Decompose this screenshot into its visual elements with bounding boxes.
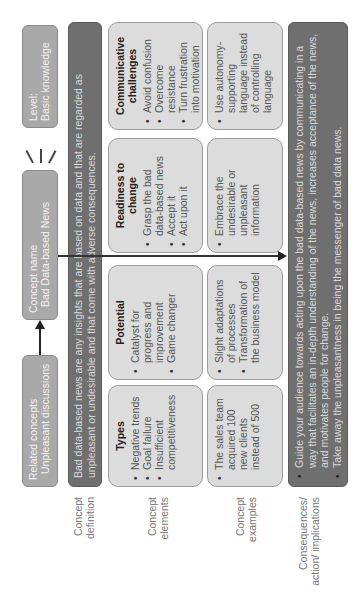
related-concepts-box: Related concepts Unpleasant discussions: [22, 355, 58, 487]
element-title: Readiness to change: [114, 145, 138, 246]
row-label-consequences: Consequences/ action/ implications: [297, 497, 321, 587]
element-title: Types: [114, 392, 126, 480]
element-list: Catalyst for progress and improvement Ga…: [129, 272, 177, 373]
definition-box: Bad data-based news are any insights tha…: [68, 22, 102, 487]
arrow-head-icon: [35, 320, 45, 329]
list-item: Insufficient competitiveness: [153, 392, 177, 480]
list-item: Accept it: [165, 145, 177, 246]
example-list: Embrace the undesirable or unpleasant in…: [213, 145, 261, 246]
row-label-definition: Concept definition: [72, 497, 96, 555]
element-list: Grasp the bad data-based news Accept it …: [141, 145, 189, 246]
example-list: Slight adaptations of processes Transfor…: [213, 272, 261, 373]
dash-line: [26, 150, 34, 163]
concept-name-label: Concept name: [27, 177, 39, 313]
level-box: Level: Basic knowledge: [22, 25, 58, 128]
list-item: Transformation of the business model: [237, 272, 261, 373]
list-item: Catalyst for progress and improvement: [129, 272, 165, 373]
list-item: Negative trends: [129, 392, 141, 480]
element-list: Negative trends Goal failure Insufficien…: [129, 392, 177, 480]
concept-name-value: Bad Data-based News: [39, 177, 51, 313]
element-card-types: Types Negative trends Goal failure Insuf…: [108, 385, 203, 487]
row-label-elements: Concept elements: [146, 497, 170, 555]
example-list: Use autonomy-supporting language instead…: [213, 29, 273, 123]
consequences-list: Guide your audience towards acting upon …: [293, 31, 343, 478]
list-item: Goal failure: [141, 392, 153, 480]
example-card-readiness: Embrace the undesirable or unpleasant in…: [207, 138, 283, 253]
element-title: Communicative challenges: [114, 29, 138, 123]
element-card-readiness: Readiness to change Grasp the bad data-b…: [108, 138, 203, 253]
arrow-related-to-name: [39, 327, 41, 355]
related-concepts-label: Related concepts: [27, 362, 39, 480]
definition-text: Bad data-based news are any insights tha…: [72, 74, 97, 478]
list-item: Take away the unpleasantness in being th…: [331, 31, 344, 478]
element-card-communicative: Communicative challenges Avoid confusion…: [108, 22, 203, 130]
consequences-box: Guide your audience towards acting upon …: [288, 22, 348, 487]
element-title: Potential: [114, 272, 126, 373]
list-item: Overcome resistance: [153, 29, 177, 123]
list-item: Embrace the undesirable or unpleasant in…: [213, 145, 261, 246]
list-item: Slight adaptations of processes: [213, 272, 237, 373]
list-item: Turn frustration into motivation: [177, 29, 201, 123]
list-item: Use autonomy-supporting language instead…: [213, 29, 273, 123]
element-list: Avoid confusion Overcome resistance Turn…: [141, 29, 201, 123]
concept-name-box: Concept name Bad Data-based News: [22, 170, 58, 320]
example-card-communicative: Use autonomy-supporting language instead…: [207, 22, 283, 130]
dash-line: [48, 150, 56, 163]
level-label: Level:: [27, 32, 39, 121]
list-item: Act upon it: [177, 145, 189, 246]
list-item: The sales team acquired 100 new clients …: [213, 392, 261, 480]
dash-line: [40, 149, 42, 163]
related-concepts-value: Unpleasant discussions: [39, 362, 51, 480]
concept-diagram: Related concepts Unpleasant discussions …: [0, 0, 357, 603]
connector-line: [58, 256, 280, 258]
list-item: Avoid confusion: [141, 29, 153, 123]
element-card-potential: Potential Catalyst for progress and impr…: [108, 265, 203, 380]
example-list: The sales team acquired 100 new clients …: [213, 392, 261, 480]
list-item: Grasp the bad data-based news: [141, 145, 165, 246]
row-label-examples: Concept examples: [234, 497, 258, 555]
connector-arrow-head-icon: [278, 251, 287, 261]
example-card-types: The sales team acquired 100 new clients …: [207, 385, 283, 487]
list-item: Game changer: [165, 272, 177, 373]
list-item: Guide your audience towards acting upon …: [293, 31, 331, 478]
example-card-potential: Slight adaptations of processes Transfor…: [207, 265, 283, 380]
level-value: Basic knowledge: [39, 32, 51, 121]
